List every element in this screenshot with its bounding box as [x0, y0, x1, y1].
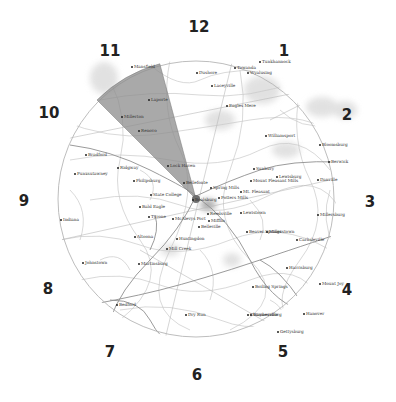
city-dot-icon — [319, 283, 321, 285]
city-label: Carlisleville — [296, 238, 324, 242]
city-name: Williamsport — [268, 133, 295, 138]
city-dot-icon — [276, 176, 278, 178]
city-name: Mifflin — [211, 218, 225, 223]
city-name: Bloomsburg — [322, 142, 348, 147]
city-dot-icon — [176, 238, 178, 240]
city-dot-icon — [240, 191, 242, 193]
city-name: Belleville — [201, 224, 221, 229]
city-label: Eagles Mere — [226, 104, 256, 108]
city-label: Mifflin — [208, 219, 225, 223]
city-label: Berwick — [328, 160, 348, 164]
city-name: Bradford — [88, 152, 107, 157]
city-label: Tunkhannock — [259, 60, 291, 64]
city-dot-icon — [253, 168, 255, 170]
city-name: Tyrone — [151, 214, 166, 219]
city-label: Bellefonte — [183, 181, 208, 185]
city-dot-icon — [296, 239, 298, 241]
city-name: Potters Mills — [221, 195, 248, 200]
city-name: Lock Haven — [170, 163, 195, 168]
city-name: Boiling Springs — [255, 284, 288, 289]
city-name: Carlisleville — [299, 237, 324, 242]
city-label: Millerstown — [266, 230, 294, 234]
city-name: Bald Eagle — [142, 204, 165, 209]
city-name: Johnstown — [85, 260, 107, 265]
city-label: Mansfield — [131, 65, 155, 69]
city-name: Berwick — [331, 159, 348, 164]
city-label: Lewistown — [240, 211, 266, 215]
city-label: Boalsburg — [192, 198, 217, 202]
city-label: Tyrone — [148, 215, 166, 219]
city-label: Bradford — [85, 153, 107, 157]
city-label: Dushore — [196, 71, 217, 75]
city-name: Laceyville — [214, 83, 235, 88]
city-label: Philipsburg — [133, 179, 160, 183]
city-label: Bloomsburg — [319, 143, 348, 147]
city-label: Millersburg — [317, 213, 345, 217]
city-dot-icon — [85, 154, 87, 156]
city-dot-icon — [133, 180, 135, 182]
clock-label-12: 12 — [189, 20, 210, 35]
city-dot-icon — [317, 214, 319, 216]
city-label: Altoona — [134, 235, 153, 239]
city-name: Mt. Pleasant — [243, 189, 270, 194]
city-dot-icon — [211, 85, 213, 87]
city-label: Danville — [317, 178, 337, 182]
city-label: Martinsburg — [138, 262, 168, 266]
city-dot-icon — [277, 331, 279, 333]
city-dot-icon — [139, 206, 141, 208]
city-name: Millersburg — [320, 212, 345, 217]
city-dot-icon — [121, 116, 123, 118]
city-dot-icon — [247, 314, 249, 316]
city-name: Gettysburg — [280, 329, 304, 334]
radial-map: 121234567891011 MansfieldLaporteMillerto… — [0, 0, 396, 402]
city-dot-icon — [192, 199, 194, 201]
city-label: Harrisburg — [286, 266, 313, 270]
city-dot-icon — [167, 165, 169, 167]
clock-label-5: 5 — [278, 345, 288, 360]
city-dot-icon — [246, 231, 248, 233]
city-name: Punxsutawney — [77, 171, 108, 176]
city-dot-icon — [148, 216, 150, 218]
city-dot-icon — [303, 313, 305, 315]
city-label: Punxsutawney — [74, 172, 108, 176]
city-label: Gettysburg — [277, 330, 304, 334]
city-name: Indiana — [63, 217, 79, 222]
city-label: Sunbury — [253, 167, 274, 171]
city-label: Spring Mills — [210, 186, 239, 190]
city-name: Bellefonte — [186, 180, 208, 185]
clock-label-9: 9 — [19, 194, 29, 209]
city-label: Potters Mills — [218, 196, 248, 200]
city-dot-icon — [247, 72, 249, 74]
city-dot-icon — [196, 72, 198, 74]
city-label: Lewisburg — [276, 175, 301, 179]
city-dot-icon — [134, 236, 136, 238]
city-dot-icon — [252, 286, 254, 288]
city-label: Bedford — [116, 303, 136, 307]
city-label: McAlevys Fort — [172, 217, 206, 221]
city-name: Harrisburg — [289, 265, 313, 270]
city-name: Reedsville — [210, 211, 232, 216]
city-name: Renovo — [141, 128, 157, 133]
city-name: Millerstown — [269, 229, 294, 234]
city-name: Hanover — [306, 311, 324, 316]
city-name: Tunkhannock — [262, 59, 291, 64]
city-name: Wyalusing — [250, 70, 272, 75]
city-name: Mansfield — [134, 64, 155, 69]
city-label: Boiling Springs — [252, 285, 288, 289]
city-label: Lock Haven — [167, 164, 195, 168]
city-label: Dry Run — [185, 313, 206, 317]
city-label: Hanover — [303, 312, 324, 316]
city-name: Lewistown — [243, 210, 266, 215]
city-dot-icon — [148, 99, 150, 101]
city-name: State College — [153, 192, 182, 197]
city-label: Huntingdon — [176, 237, 204, 241]
city-dot-icon — [208, 220, 210, 222]
city-name: Eagles Mere — [229, 103, 256, 108]
city-dot-icon — [198, 226, 200, 228]
city-label: Johnstown — [82, 261, 107, 265]
city-name: Boalsburg — [195, 197, 217, 202]
city-label: Reedsville — [207, 212, 232, 216]
city-dot-icon — [60, 219, 62, 221]
city-name: Mount Joy — [322, 281, 344, 286]
city-dot-icon — [286, 267, 288, 269]
